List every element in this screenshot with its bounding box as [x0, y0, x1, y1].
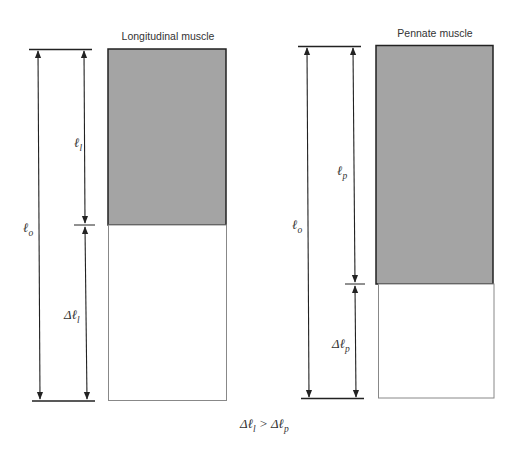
longitudinal-panel: Longitudinal muscle ℓl ℓo Δℓl	[23, 30, 227, 401]
pennate-muscle-block	[376, 46, 493, 285]
longitudinal-extension-block	[109, 225, 227, 401]
label-l-o-right: ℓo	[292, 217, 302, 235]
delta-length-arrow	[355, 286, 356, 397]
longitudinal-title: Longitudinal muscle	[122, 30, 215, 42]
delta-length-arrow	[85, 227, 87, 399]
label-l-p: ℓp	[337, 163, 347, 181]
label-delta-p: Δℓp	[331, 336, 350, 354]
muscle-length-arrow	[84, 51, 85, 223]
pennate-extension-block	[379, 284, 495, 398]
relation-caption: Δℓl > Δℓp	[239, 416, 289, 434]
pennate-title: Pennate muscle	[397, 27, 472, 39]
muscle-diagram: Longitudinal muscle ℓl ℓo Δℓl Pennate mu…	[0, 0, 522, 449]
pennate-panel: Pennate muscle ℓp ℓo Δℓp	[292, 27, 494, 399]
label-delta-l: Δℓl	[63, 307, 80, 325]
label-l-o-left: ℓo	[23, 220, 33, 238]
longitudinal-muscle-block	[108, 49, 226, 225]
muscle-length-arrow	[353, 48, 355, 282]
total-length-arrow	[38, 51, 40, 399]
total-length-arrow	[307, 48, 309, 397]
label-l-l: ℓl	[74, 135, 82, 153]
